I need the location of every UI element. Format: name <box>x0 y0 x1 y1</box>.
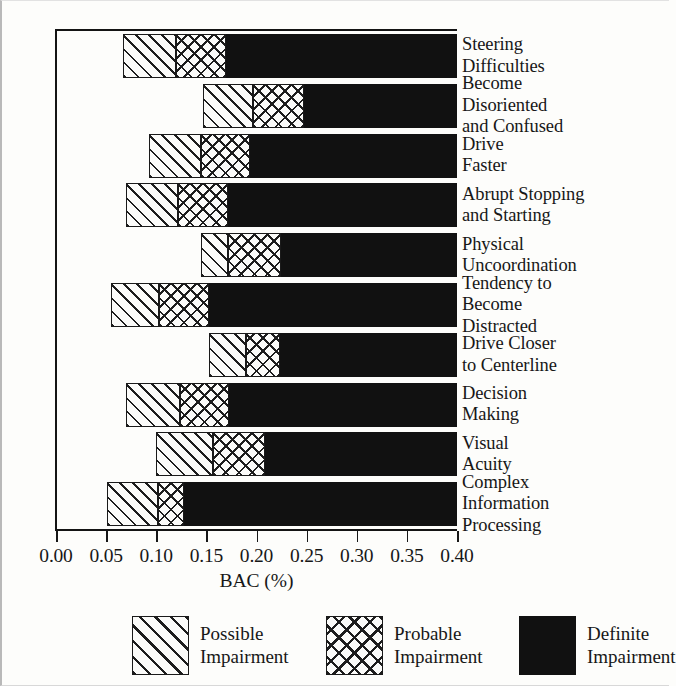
legend-label: DefiniteImpairment <box>587 623 676 668</box>
bar-segment <box>246 333 279 377</box>
bar-segment <box>265 432 457 476</box>
chart-legend: PossibleImpairmentProbableImpairmentDefi… <box>0 602 669 686</box>
category-label-line: Complex <box>462 472 669 494</box>
bar-segment <box>201 134 250 178</box>
bar-segment <box>209 283 457 327</box>
legend-label-line: Impairment <box>394 646 483 669</box>
bar-row <box>56 333 457 377</box>
bar-segment <box>156 432 213 476</box>
category-label-line: Drive <box>462 134 669 156</box>
bar-row <box>56 482 457 526</box>
bar-segment <box>149 134 201 178</box>
category-label-line: Steering <box>462 34 669 56</box>
bar-segment <box>176 34 226 78</box>
plot-area <box>56 31 457 529</box>
bar-segment <box>180 383 229 427</box>
category-label-line: and Starting <box>462 205 669 227</box>
bar-row <box>56 233 457 277</box>
category-label: DriveFaster <box>462 131 669 181</box>
legend-label-line: Probable <box>394 623 483 646</box>
bar-segment <box>253 84 303 128</box>
x-axis-tick <box>307 531 309 542</box>
x-axis-tick-label: 0.00 <box>39 545 72 567</box>
x-axis-tick <box>106 531 108 542</box>
legend-label: ProbableImpairment <box>394 623 483 668</box>
bar-segment <box>123 34 176 78</box>
bar-segment <box>178 183 228 227</box>
bar-row <box>56 183 457 227</box>
category-label-line: Become <box>462 294 669 316</box>
x-axis-tick-label: 0.10 <box>140 545 173 567</box>
category-label-line: Become <box>462 73 669 95</box>
category-label-line: Decision <box>462 383 669 405</box>
bar-segment <box>250 134 457 178</box>
legend-item: PossibleImpairment <box>132 616 289 675</box>
category-label-line: Drive Closer <box>462 333 669 355</box>
bar-segment <box>228 233 280 277</box>
bar-row <box>56 134 457 178</box>
x-axis-tick <box>156 531 158 542</box>
x-axis-tick <box>407 531 409 542</box>
bar-segment <box>111 283 159 327</box>
x-axis-tick-label: 0.30 <box>340 545 373 567</box>
category-labels: SteeringDifficultiesBecomeDisorientedand… <box>462 31 669 529</box>
legend-item: DefiniteImpairment <box>519 616 676 675</box>
bar-segment <box>203 84 253 128</box>
category-label-line: Abrupt Stopping <box>462 184 669 206</box>
x-axis-tick <box>457 531 459 542</box>
legend-label-line: Possible <box>200 623 289 646</box>
bar-row <box>56 283 457 327</box>
legend-label-line: Definite <box>587 623 676 646</box>
legend-item: ProbableImpairment <box>326 616 483 675</box>
x-axis-tick <box>56 531 58 542</box>
legend-label: PossibleImpairment <box>200 623 289 668</box>
x-axis-tick-label: 0.15 <box>190 545 223 567</box>
x-axis-tick-label: 0.25 <box>290 545 323 567</box>
category-label-line: Processing <box>462 515 669 537</box>
legend-swatch <box>132 616 189 675</box>
bar-segment <box>228 183 457 227</box>
bar-segment <box>213 432 264 476</box>
category-label: Abrupt Stoppingand Starting <box>462 180 669 230</box>
category-label-line: Information <box>462 493 669 515</box>
x-axis-title: BAC (%) <box>56 570 457 592</box>
category-label: DecisionMaking <box>462 380 669 430</box>
bar-segment <box>229 383 457 427</box>
bar-segment <box>184 482 457 526</box>
category-label-line: Visual <box>462 433 669 455</box>
legend-label-line: Impairment <box>200 646 289 669</box>
category-label-line: Physical <box>462 234 669 256</box>
x-axis-tick <box>357 531 359 542</box>
bar-row <box>56 383 457 427</box>
bar-segment <box>126 183 178 227</box>
x-axis-tick-label: 0.35 <box>390 545 423 567</box>
category-label-line: Making <box>462 404 669 426</box>
category-label: Tendency toBecomeDistracted <box>462 280 669 330</box>
category-label: ComplexInformationProcessing <box>462 479 669 529</box>
bar-segment <box>107 482 158 526</box>
x-axis-tick-label: 0.20 <box>240 545 273 567</box>
bar-row <box>56 34 457 78</box>
x-axis-tick-label: 0.05 <box>89 545 122 567</box>
legend-swatch <box>519 616 576 675</box>
category-label-line: Tendency to <box>462 273 669 295</box>
x-axis-tick <box>257 531 259 542</box>
bar-segment <box>158 482 184 526</box>
category-label-line: to Centerline <box>462 355 669 377</box>
category-label: Drive Closerto Centerline <box>462 330 669 380</box>
bar-segment <box>304 84 457 128</box>
x-axis-tick <box>206 531 208 542</box>
bar-segment <box>159 283 209 327</box>
category-label-line: Disoriented <box>462 95 669 117</box>
legend-swatch <box>326 616 383 675</box>
category-label: BecomeDisorientedand Confused <box>462 81 669 131</box>
x-axis-tick-label: 0.40 <box>440 545 473 567</box>
bar-segment <box>281 233 457 277</box>
bar-segment <box>280 333 457 377</box>
bar-segment <box>201 233 228 277</box>
bar-segment <box>209 333 246 377</box>
bar-segment <box>126 383 180 427</box>
bar-row <box>56 432 457 476</box>
bar-row <box>56 84 457 128</box>
